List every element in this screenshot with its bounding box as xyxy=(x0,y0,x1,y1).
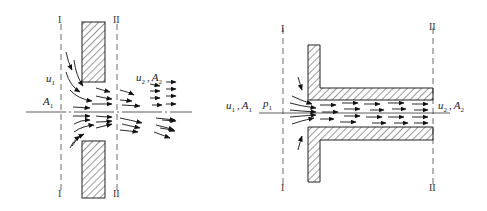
outlet-velocity-area-label: u2,A2 xyxy=(136,72,162,86)
section-I-bottom-label: I xyxy=(281,183,284,193)
inlet-area-label: A1 xyxy=(43,96,53,110)
section-II-top-label: II xyxy=(113,15,120,25)
section-I-top-label: I xyxy=(58,15,61,25)
outlet-velocity-area-label: u2,A2 xyxy=(438,100,464,114)
wall-upper xyxy=(308,45,433,100)
short-tube-figure xyxy=(259,28,450,184)
section-II-top-label: II xyxy=(429,22,436,32)
wall-upper xyxy=(82,22,105,82)
wall-lower xyxy=(308,127,433,182)
inlet-velocity-label: u1 xyxy=(46,73,55,87)
section-I-bottom-label: I xyxy=(58,189,61,199)
section-II-bottom-label: II xyxy=(113,189,120,199)
inlet-pressure-label: p1 xyxy=(263,98,272,112)
wall-lower xyxy=(82,141,105,198)
section-I-top-label: I xyxy=(281,24,284,34)
inlet-velocity-area-label: u1,A1 xyxy=(226,100,252,114)
section-II-bottom-label: II xyxy=(429,183,436,193)
